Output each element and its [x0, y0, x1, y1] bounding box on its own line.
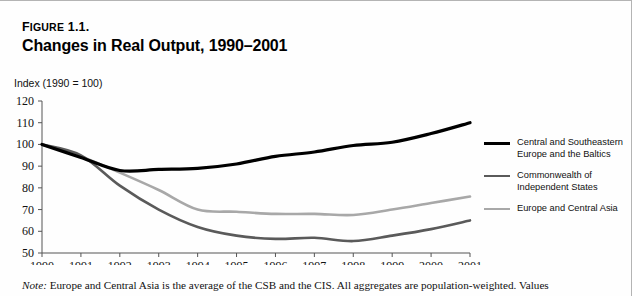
figure-label-word: IGURE — [30, 21, 64, 33]
x-axis-tick-label: 2000 — [419, 259, 443, 265]
figure-container: FIGURE 1.1. Changes in Real Output, 1990… — [0, 0, 632, 296]
legend-item: Commonwealth ofIndependent States — [484, 170, 624, 194]
y-axis-tick-label: 80 — [22, 181, 34, 195]
legend-color-swatch — [484, 208, 510, 211]
y-axis-tick-label: 100 — [16, 137, 34, 151]
figure-number-label: FIGURE 1.1. — [22, 20, 89, 34]
x-axis-tick-label: 1990 — [30, 259, 54, 265]
y-axis-tick-label: 90 — [22, 159, 34, 173]
legend-item-label: Europe and Central Asia — [517, 203, 618, 215]
x-axis-tick-label: 1993 — [147, 259, 171, 265]
x-axis-tick-label: 1998 — [341, 259, 365, 265]
y-axis-tick-label: 50 — [22, 246, 34, 260]
x-axis-tick-label: 1997 — [302, 259, 326, 265]
chart-legend: Central and SoutheasternEurope and the B… — [484, 137, 624, 223]
series-line — [42, 123, 470, 171]
legend-color-swatch — [484, 175, 510, 178]
x-axis-tick-label: 1992 — [108, 259, 132, 265]
x-axis-tick-label: 1995 — [225, 259, 249, 265]
legend-item-label: Central and SoutheasternEurope and the B… — [517, 137, 623, 161]
figure-label-number: 1.1. — [64, 20, 89, 34]
legend-color-swatch — [484, 142, 510, 145]
legend-item: Central and SoutheasternEurope and the B… — [484, 137, 624, 161]
note-body: Europe and Central Asia is the average o… — [47, 279, 549, 291]
y-axis-tick-label: 110 — [16, 116, 34, 130]
x-axis-tick-label: 2001 — [458, 259, 482, 265]
x-axis-tick-label: 1996 — [263, 259, 287, 265]
y-axis-tick-label: 120 — [16, 94, 34, 108]
legend-item: Europe and Central Asia — [484, 203, 624, 215]
note-prefix: Note: — [22, 279, 47, 291]
figure-note: Note: Europe and Central Asia is the ave… — [22, 279, 614, 291]
page-title: Changes in Real Output, 1990–2001 — [22, 37, 287, 55]
y-axis-caption: Index (1990 = 100) — [14, 77, 102, 89]
figure-label-initial: F — [22, 20, 30, 34]
x-axis-tick-label: 1999 — [380, 259, 404, 265]
series-line — [42, 144, 470, 215]
legend-item-label: Commonwealth ofIndependent States — [517, 170, 598, 194]
x-axis-tick-label: 1994 — [186, 259, 210, 265]
y-axis-tick-label: 60 — [22, 224, 34, 238]
y-axis-tick-label: 70 — [22, 203, 34, 217]
x-axis-tick-label: 1991 — [69, 259, 93, 265]
